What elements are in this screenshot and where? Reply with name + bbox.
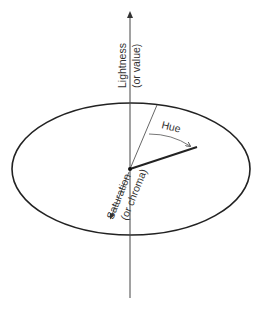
color-space-diagram: Lightness (or value) Hue Saturation (or … <box>0 0 264 309</box>
value-label: (or value) <box>130 44 142 88</box>
center-point <box>128 167 132 171</box>
lightness-label: Lightness <box>116 43 128 88</box>
hue-arc <box>149 134 190 146</box>
reference-radius <box>130 105 157 169</box>
hue-radius <box>130 147 197 169</box>
hue-label: Hue <box>161 118 183 134</box>
